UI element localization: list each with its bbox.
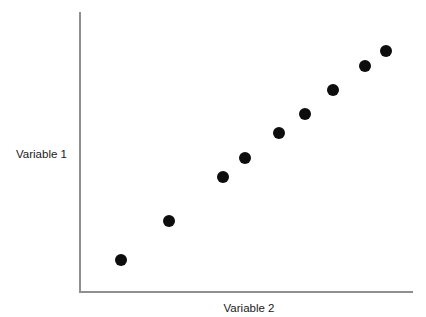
data-point (380, 45, 392, 57)
data-point (239, 152, 251, 164)
data-point (359, 60, 371, 72)
data-point (115, 254, 127, 266)
x-axis-label: Variable 2 (0, 301, 426, 315)
scatter-plot-figure: Variable 1 Variable 2 (0, 0, 426, 317)
data-point (299, 108, 311, 120)
y-axis-label: Variable 1 (16, 147, 67, 161)
data-point (217, 171, 229, 183)
x-axis-line (79, 291, 413, 293)
plot-area (81, 12, 413, 291)
data-point (163, 215, 175, 227)
data-point (273, 127, 285, 139)
data-point (327, 84, 339, 96)
